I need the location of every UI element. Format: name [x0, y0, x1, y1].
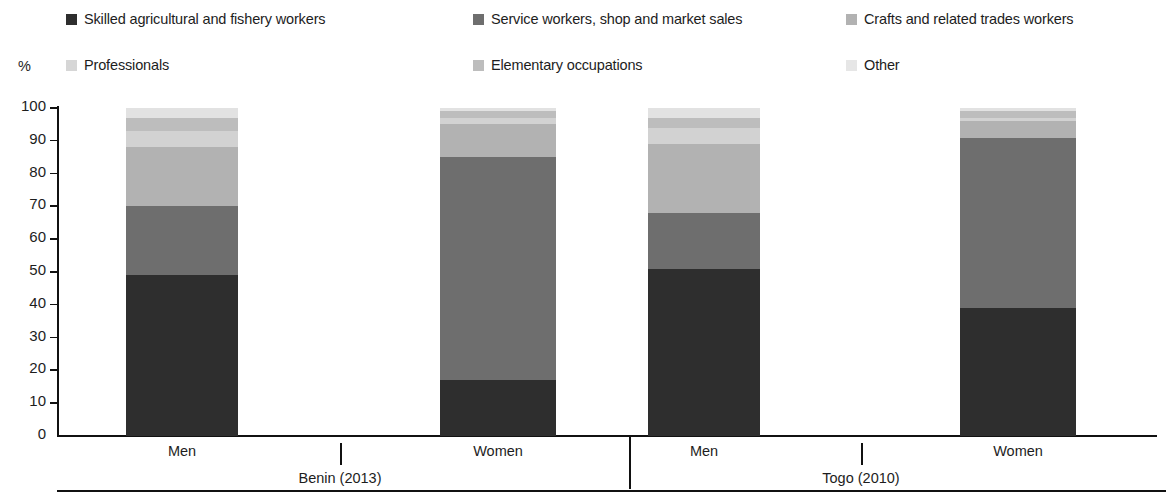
- legend-item-service-workers-shop-and-market-sales: Service workers, shop and market sales: [473, 6, 742, 32]
- y-tick-label-10: 10: [2, 395, 46, 407]
- chart-legend: Skilled agricultural and fishery workers…: [0, 0, 1166, 86]
- bar-segment-other: [960, 108, 1076, 111]
- legend-label-service-workers-shop-and-market-sales: Service workers, shop and market sales: [491, 12, 742, 27]
- legend-label-crafts-and-related-trades-workers: Crafts and related trades workers: [864, 12, 1073, 27]
- y-tick-label-80: 80: [2, 166, 46, 178]
- bar-segment-professionals: [648, 128, 760, 144]
- bar-segment-service-workers-shop-and-market-sales: [126, 206, 238, 275]
- bar-segment-service-workers-shop-and-market-sales: [440, 157, 556, 380]
- bar-segment-crafts-and-related-trades-workers: [960, 121, 1076, 137]
- legend-swatch-elementary-occupations: [473, 60, 484, 71]
- group-label-1: Togo (2010): [761, 470, 961, 486]
- bar-segment-service-workers-shop-and-market-sales: [648, 213, 760, 269]
- bar-togo-men: [648, 108, 760, 436]
- bar-segment-elementary-occupations: [126, 118, 238, 131]
- legend-swatch-professionals: [66, 60, 77, 71]
- bar-segment-skilled-agricultural-and-fishery-workers: [440, 380, 556, 436]
- legend-item-professionals: Professionals: [66, 52, 169, 78]
- legend-item-skilled-agricultural-and-fishery-workers: Skilled agricultural and fishery workers: [66, 6, 325, 32]
- group-separator-1: [629, 437, 631, 489]
- legend-swatch-other: [846, 60, 857, 71]
- bar-segment-professionals: [126, 131, 238, 147]
- group-separator-0: [340, 443, 342, 465]
- bar-segment-professionals: [960, 118, 1076, 121]
- category-label-2: Men: [644, 443, 764, 459]
- bar-segment-skilled-agricultural-and-fishery-workers: [960, 308, 1076, 436]
- legend-label-other: Other: [864, 58, 900, 73]
- legend-label-professionals: Professionals: [84, 58, 169, 73]
- y-tick-label-100: 100: [2, 100, 46, 112]
- y-tick-label-40: 40: [2, 297, 46, 309]
- bar-segment-crafts-and-related-trades-workers: [648, 144, 760, 213]
- bar-segment-skilled-agricultural-and-fishery-workers: [126, 275, 238, 436]
- y-tick-label-0: 0: [2, 428, 46, 440]
- legend-swatch-service-workers-shop-and-market-sales: [473, 14, 484, 25]
- plot-area: [57, 107, 1157, 436]
- bar-benin-men: [126, 108, 238, 436]
- bar-benin-women: [440, 108, 556, 436]
- bar-segment-skilled-agricultural-and-fishery-workers: [648, 269, 760, 436]
- legend-label-elementary-occupations: Elementary occupations: [491, 58, 642, 73]
- y-tick-label-50: 50: [2, 264, 46, 276]
- category-label-0: Men: [122, 443, 242, 459]
- bar-segment-crafts-and-related-trades-workers: [440, 124, 556, 157]
- legend-row-1: Skilled agricultural and fishery workers…: [0, 6, 1166, 32]
- legend-item-crafts-and-related-trades-workers: Crafts and related trades workers: [846, 6, 1073, 32]
- legend-item-elementary-occupations: Elementary occupations: [473, 52, 642, 78]
- bar-segment-elementary-occupations: [440, 111, 556, 118]
- category-label-3: Women: [958, 443, 1078, 459]
- group-separator-2: [861, 443, 863, 465]
- y-tick-label-60: 60: [2, 231, 46, 243]
- bar-segment-other: [648, 108, 760, 118]
- legend-row-2: Professionals Elementary occupations Oth…: [0, 52, 1166, 78]
- bar-segment-other: [440, 108, 556, 111]
- group-label-0: Benin (2013): [240, 470, 440, 486]
- y-tick-label-70: 70: [2, 198, 46, 210]
- bar-segment-elementary-occupations: [648, 118, 760, 128]
- stacked-bar-chart: Skilled agricultural and fishery workers…: [0, 0, 1166, 492]
- y-tick-label-20: 20: [2, 362, 46, 374]
- bar-segment-other: [126, 108, 238, 118]
- bar-segment-professionals: [440, 118, 556, 125]
- bar-segment-elementary-occupations: [960, 111, 1076, 118]
- legend-swatch-crafts-and-related-trades-workers: [846, 14, 857, 25]
- legend-swatch-skilled-agricultural-and-fishery-workers: [66, 14, 77, 25]
- category-label-1: Women: [438, 443, 558, 459]
- y-tick-label-90: 90: [2, 133, 46, 145]
- legend-item-other: Other: [846, 52, 900, 78]
- bar-segment-service-workers-shop-and-market-sales: [960, 138, 1076, 309]
- legend-label-skilled-agricultural-and-fishery-workers: Skilled agricultural and fishery workers: [84, 12, 325, 27]
- y-axis-tick-labels: 1009080706050403020100: [0, 0, 46, 492]
- bar-togo-women: [960, 108, 1076, 436]
- bar-segment-crafts-and-related-trades-workers: [126, 147, 238, 206]
- y-tick-label-30: 30: [2, 330, 46, 342]
